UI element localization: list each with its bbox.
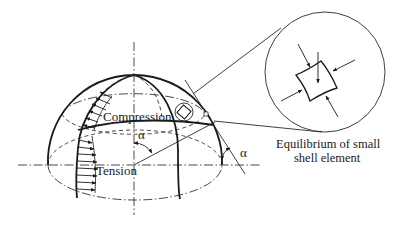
shell-equilibrium-diagram: α α Compression Tension Equilibrium of s… xyxy=(0,0,395,226)
alpha-right-label: α xyxy=(240,145,247,160)
shell-element xyxy=(296,61,337,101)
magnified-detail xyxy=(265,12,385,132)
tangent-angle: α xyxy=(185,80,247,174)
tension-arrows xyxy=(77,136,98,193)
tangent-line xyxy=(185,80,245,174)
compression-label: Compression xyxy=(103,109,172,124)
small-element-marker xyxy=(175,103,208,121)
alpha-center-label: α xyxy=(138,127,145,142)
caption-line-2: shell element xyxy=(294,151,361,165)
tension-label: Tension xyxy=(96,163,137,178)
caption-line-1: Equilibrium of small xyxy=(276,137,381,151)
